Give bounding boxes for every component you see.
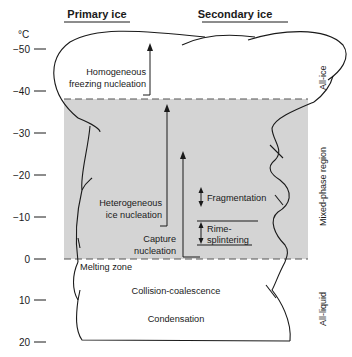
tick-label: −10	[13, 212, 30, 223]
tick-label: −20	[13, 170, 30, 181]
mixed-phase-region-label: Mixed-phase region	[318, 147, 328, 226]
all-liquid-label: All-liquid	[318, 292, 328, 326]
capture-label-line1: Capture	[143, 234, 176, 244]
tick-label: 10	[19, 295, 31, 306]
tick-label: −40	[13, 86, 30, 97]
all-ice-label: All-ice	[318, 65, 328, 90]
axis-unit-label: °C	[18, 29, 29, 40]
heterogeneous-label-line2: ice nucleation	[106, 210, 162, 220]
rime-splintering-label-line2: splintering	[207, 235, 249, 245]
cloud-microphysics-diagram: Primary ice Secondary ice °C −50 −40 −30…	[0, 0, 352, 357]
mixed-phase-region-shading	[64, 99, 308, 259]
homogeneous-label-line1: Homogeneous	[86, 67, 146, 77]
secondary-ice-header: Secondary ice	[198, 8, 273, 20]
rime-splintering-label-line1: Rime-	[207, 224, 232, 234]
tick-label: −30	[13, 128, 30, 139]
heterogeneous-label-line1: Heterogeneous	[99, 198, 162, 208]
axis-ticks: −50 −40 −30 −20 −10 0 10 20	[13, 44, 46, 348]
primary-ice-header: Primary ice	[67, 8, 126, 20]
collision-coalescence-label: Collision-coalescence	[132, 286, 221, 296]
condensation-label: Condensation	[148, 314, 205, 324]
fragmentation-label: Fragmentation	[207, 193, 266, 203]
melting-zone-label: Melting zone	[80, 262, 132, 272]
tick-label: 20	[19, 337, 31, 348]
tick-label: −50	[13, 44, 30, 55]
tick-label: 0	[24, 254, 30, 265]
capture-label-line2: nucleation	[134, 246, 176, 256]
homogeneous-label-line2: freezing nucleation	[69, 79, 146, 89]
